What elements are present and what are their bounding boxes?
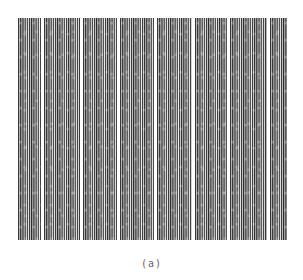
- stripe-block-4: [120, 18, 154, 240]
- stripe-block-2: [44, 18, 80, 240]
- stripe-block-3: [83, 18, 117, 240]
- stripe-block-8: [270, 18, 287, 240]
- figure-caption: (a): [0, 258, 303, 269]
- figure: (a): [0, 0, 303, 280]
- stripe-block-6: [195, 18, 227, 240]
- stripe-block-5: [157, 18, 192, 240]
- stripe-block-7: [230, 18, 267, 240]
- stripe-block-1: [18, 18, 41, 240]
